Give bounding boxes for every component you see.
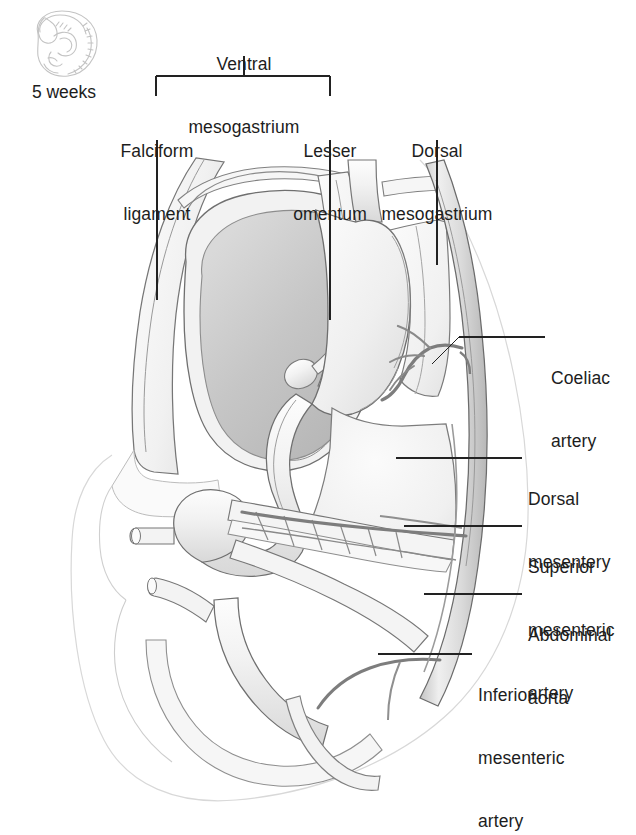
label-dorsal-mesentery-line1: Dorsal bbox=[528, 489, 611, 510]
umbilical-vessel bbox=[148, 578, 215, 622]
label-coeliac-artery-line1: Coeliac bbox=[551, 368, 610, 389]
label-superior-mesenteric-artery-line1: Superior bbox=[528, 557, 615, 578]
label-falciform-ligament-line2: ligament bbox=[87, 204, 227, 225]
label-dorsal-mesogastrium: Dorsal mesogastrium bbox=[367, 99, 507, 267]
label-falciform-ligament-line1: Falciform bbox=[87, 141, 227, 162]
inferior-mesenteric-artery bbox=[318, 659, 440, 720]
vitelline-duct bbox=[130, 528, 174, 544]
label-falciform-ligament: Falciform ligament bbox=[87, 99, 227, 267]
bracket-title-line1: Ventral bbox=[144, 54, 344, 75]
label-inferior-mesenteric-artery: Inferior mesenteric artery bbox=[478, 643, 565, 835]
label-inferior-mesenteric-artery-line3: artery bbox=[478, 811, 565, 832]
label-dorsal-mesogastrium-line1: Dorsal bbox=[367, 141, 507, 162]
label-inferior-mesenteric-artery-line2: mesenteric bbox=[478, 748, 565, 769]
label-inferior-mesenteric-artery-line1: Inferior bbox=[478, 685, 565, 706]
label-dorsal-mesogastrium-line2: mesogastrium bbox=[367, 204, 507, 225]
